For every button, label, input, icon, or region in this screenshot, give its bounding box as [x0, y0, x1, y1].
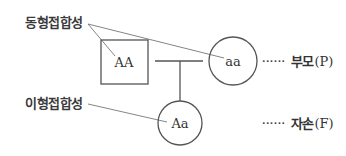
generation-label-parent: ······ 부모 (P)	[262, 55, 333, 68]
homozygous-pointer-to-aa	[88, 24, 224, 58]
pedigree-diagram: 동형접합성 이형접합성 AA aa Aa ······ 부모 (P) ·····…	[0, 0, 346, 156]
heterozygous-pointer-to-Aa	[88, 104, 167, 122]
generation-label-offspring: ······ 자손 (F)	[262, 117, 334, 130]
dotted-leader: ······	[262, 119, 286, 128]
heterozygous-label: 이형접합성	[25, 97, 83, 110]
parent-circle-genotype: aa	[225, 55, 241, 68]
parent-square-genotype: AA	[115, 56, 134, 69]
homozygous-label: 동형접합성	[25, 16, 83, 29]
generation-name: 자손	[291, 117, 314, 130]
offspring-circle-genotype: Aa	[171, 117, 188, 130]
generation-code: (F)	[315, 117, 334, 130]
generation-name: 부모	[291, 55, 314, 68]
generation-code: (P)	[315, 55, 334, 68]
dotted-leader: ······	[262, 57, 286, 66]
